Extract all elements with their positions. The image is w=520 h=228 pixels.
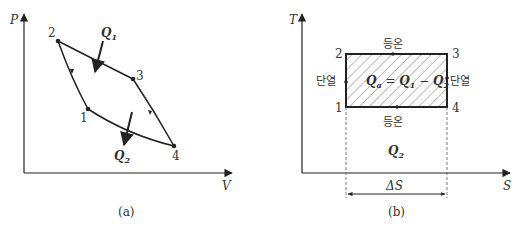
left-process-label: 단열 xyxy=(316,75,336,88)
s-axis-label: S xyxy=(503,179,511,193)
ts-diagram: T S ΔS 2 3 1 4 등온 등온 단열 단열 Qa = Q1 − Q2 … xyxy=(289,13,511,219)
heat-in-arrow-icon xyxy=(95,41,103,72)
right-process-label: 단열 xyxy=(450,75,470,88)
p-axis-label: P xyxy=(9,13,19,27)
point-label-4: 4 xyxy=(172,149,180,163)
point-4 xyxy=(172,144,177,149)
point-label-3: 3 xyxy=(136,69,144,83)
pv-diagram: P V 1 2 3 4 Q1 Q2 (a) xyxy=(9,13,232,219)
heat-out-arrow-icon xyxy=(124,112,132,145)
t-axis-label: T xyxy=(289,13,298,27)
point-label-2: 2 xyxy=(335,47,343,61)
carnot-cycle-figure: P V 1 2 3 4 Q1 Q2 (a) T S xyxy=(0,0,520,228)
top-process-label: 등온 xyxy=(383,38,403,51)
direction-arrow-icon xyxy=(391,52,395,56)
bottom-process-label: 등온 xyxy=(383,116,403,129)
point-3 xyxy=(131,77,136,82)
caption-a: (a) xyxy=(118,205,135,219)
point-label-1: 1 xyxy=(80,111,88,125)
point-label-4: 4 xyxy=(452,101,460,115)
point-label-3: 3 xyxy=(452,47,460,61)
q2-label: Q2 xyxy=(114,149,130,165)
direction-arrow-icon xyxy=(395,105,399,109)
delta-s-label: ΔS xyxy=(385,179,403,193)
q2-label: Q2 xyxy=(388,144,404,160)
point-label-2: 2 xyxy=(48,26,56,40)
process-2-3 xyxy=(58,41,133,79)
q1-label: Q1 xyxy=(101,26,117,42)
process-1-2 xyxy=(58,41,88,109)
direction-arrow-icon xyxy=(344,80,348,84)
point-2 xyxy=(56,39,61,44)
v-axis-label: V xyxy=(222,179,232,193)
direction-arrow-icon xyxy=(148,110,152,115)
point-label-1: 1 xyxy=(335,101,343,115)
caption-b: (b) xyxy=(388,205,405,219)
